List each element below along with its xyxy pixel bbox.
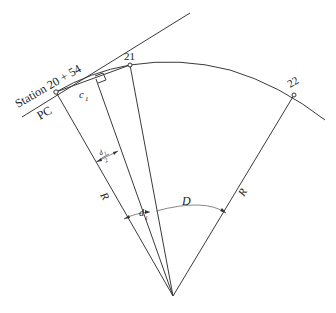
curve-diagram: Station 20 + 54 PC 21 22 c 1 d 1 2 R R d… xyxy=(0,0,336,313)
radius-pc xyxy=(56,92,173,296)
radius-right-label: R xyxy=(235,186,249,199)
station-22-label: 22 xyxy=(285,74,301,90)
pc-point xyxy=(54,90,58,94)
svg-text:22: 22 xyxy=(285,74,301,90)
svg-text:PC: PC xyxy=(35,103,55,122)
chord-label: c xyxy=(79,88,84,100)
svg-text:R: R xyxy=(98,189,112,202)
perpendicular-bisector xyxy=(96,79,173,296)
arrow-icon xyxy=(113,151,118,155)
d1-subscript: 1 xyxy=(145,215,148,221)
radius-22 xyxy=(173,95,294,296)
arrow-icon xyxy=(145,210,150,214)
station-21-label: 21 xyxy=(124,50,135,62)
radius-21 xyxy=(130,65,173,296)
tangent-line xyxy=(22,13,190,117)
pc-label: PC xyxy=(35,103,55,122)
svg-text:2: 2 xyxy=(103,157,109,164)
arrow-icon xyxy=(96,158,102,162)
degree-of-curve-label: D xyxy=(181,194,191,208)
degree-of-curve-arc xyxy=(156,205,226,213)
chord-subscript: 1 xyxy=(85,95,89,103)
station-21-point xyxy=(128,63,132,67)
svg-text:R: R xyxy=(235,186,249,199)
station-22-point xyxy=(292,93,296,97)
radius-left-label: R xyxy=(98,189,112,202)
